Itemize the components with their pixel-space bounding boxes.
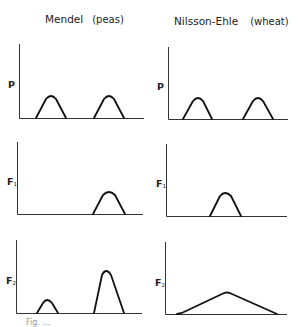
axes-mendel-f2 [17,240,143,314]
axes-mendel-p [20,44,145,119]
axes-mendel-f1 [18,142,144,215]
curve-wheat-f1 [210,193,241,216]
curve-wheat-f2-continuous [177,293,277,315]
curve-mendel-p-1 [36,96,66,118]
axes-wheat-f1 [167,144,288,217]
curve-mendel-f2-recessive [37,300,58,313]
curve-mendel-p-2 [94,96,124,118]
axes-wheat-f2 [166,242,288,315]
axes-wheat-p [169,47,289,120]
curve-wheat-p-2 [243,98,273,119]
figure-caption: Fig. ... [26,318,50,327]
curve-wheat-p-1 [183,98,212,119]
curve-mendel-f1 [93,192,125,214]
curve-mendel-f2-dominant [94,271,124,313]
